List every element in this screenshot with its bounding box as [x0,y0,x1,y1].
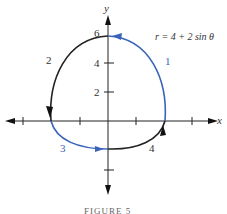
curve-segment-1 [108,36,165,121]
segment-label-4: 4 [149,143,155,154]
tick-label-4: 4 [94,58,100,69]
curve-segment-4 [108,121,165,149]
tick-label-6: 6 [94,28,100,39]
equation-label: r = 4 + 2 sin θ [155,32,214,42]
figure-caption: FIGURE 5 [84,207,131,214]
segment-label-2: 2 [46,55,52,66]
curve-segment-2 [51,36,108,121]
segment-label-1: 1 [165,56,171,67]
y-axis-arrow-up [105,15,111,25]
x-axis-label: x [217,115,222,126]
y-axis-label: y [104,3,109,14]
segment-label-3: 3 [60,143,66,154]
tick-label-2: 2 [94,87,100,98]
x-axis-arrow-left [5,118,15,124]
y-axis-arrow-down [105,185,111,195]
